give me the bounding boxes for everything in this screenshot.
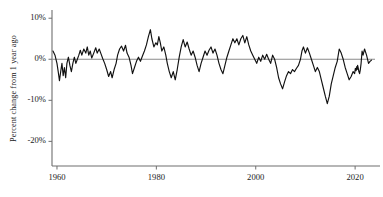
x-tick-label: 2000 xyxy=(236,172,276,182)
data-series-line xyxy=(53,30,372,104)
y-tick-label: -10% xyxy=(8,94,46,104)
x-tick-label: 2020 xyxy=(335,172,375,182)
chart-container: Percent change from 1 year ago 10%0%-10%… xyxy=(0,0,383,197)
y-tick-label: 10% xyxy=(8,12,46,22)
x-tick-label: 1960 xyxy=(37,172,77,182)
x-tick-label: 1980 xyxy=(136,172,176,182)
y-tick-label: 0% xyxy=(8,53,46,63)
line-chart-plot xyxy=(0,0,383,197)
y-tick-label: -20% xyxy=(8,135,46,145)
